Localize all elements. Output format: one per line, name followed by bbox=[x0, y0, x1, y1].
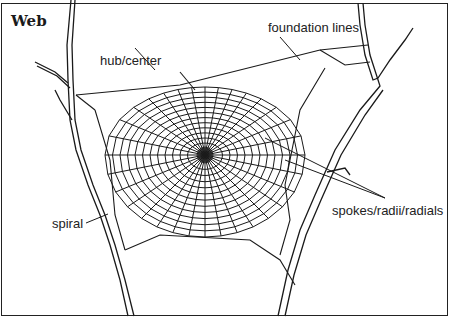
label-hub-center: hub/center bbox=[100, 53, 161, 68]
branch-right bbox=[278, 3, 413, 316]
diagram-title: Web bbox=[11, 12, 47, 30]
label-foundation-lines: foundation lines bbox=[268, 20, 359, 35]
spider-web-illustration bbox=[0, 0, 452, 321]
foundation-lines bbox=[76, 45, 370, 285]
web-diagram: Web foundation lines hub/center spiral s… bbox=[0, 0, 452, 321]
branch-left bbox=[35, 0, 134, 316]
label-spokes-radii-radials: spokes/radii/radials bbox=[332, 203, 443, 218]
web-spokes-and-spiral bbox=[105, 87, 305, 237]
label-spiral: spiral bbox=[52, 216, 83, 231]
